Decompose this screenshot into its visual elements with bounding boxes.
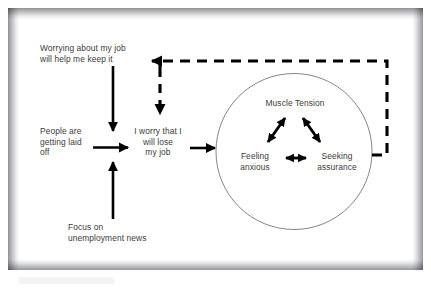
label-worry-thought: I worry that I will lose my job [130, 126, 186, 158]
label-trigger-news: Focus on unemployment news [68, 222, 186, 243]
label-belief: Worrying about my job will help me keep … [40, 43, 168, 64]
label-muscle-tension: Muscle Tension [252, 98, 338, 109]
connector-tension-anxious [268, 118, 285, 142]
connector-tension-assurance [303, 118, 320, 142]
label-feeling-anxious: Feeling anxious [228, 151, 282, 172]
label-trigger-layoffs: People are getting laid off [40, 126, 102, 158]
diagram-root: Worrying about my job will help me keep … [0, 0, 431, 292]
label-seeking-assurance: Seeking assurance [306, 151, 368, 172]
